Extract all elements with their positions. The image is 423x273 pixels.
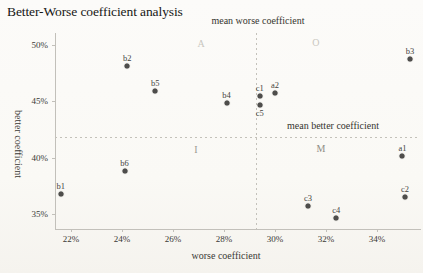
data-point-c4 bbox=[334, 215, 339, 220]
y-axis-tick bbox=[52, 214, 55, 215]
x-axis-tick-label: 24% bbox=[114, 234, 131, 244]
data-point-a2 bbox=[272, 91, 277, 96]
data-point-label-b6: b6 bbox=[120, 158, 129, 168]
data-point-label-b3: b3 bbox=[406, 46, 415, 56]
data-point-label-c2: c2 bbox=[401, 184, 409, 194]
quadrant-label-i: I bbox=[194, 143, 197, 154]
data-point-b1 bbox=[58, 191, 63, 196]
data-point-label-c3: c3 bbox=[304, 193, 312, 203]
x-axis-tick-label: 26% bbox=[165, 234, 182, 244]
x-axis-tick bbox=[122, 229, 123, 232]
data-point-label-c1: c1 bbox=[256, 83, 264, 93]
data-point-label-c4: c4 bbox=[332, 205, 340, 215]
y-axis-tick bbox=[52, 45, 55, 46]
data-point-a1 bbox=[400, 153, 405, 158]
quadrant-label-o: O bbox=[312, 36, 319, 47]
y-axis-tick-label: 50% bbox=[32, 40, 49, 50]
x-axis-tick-label: 30% bbox=[267, 234, 284, 244]
x-axis-tick-label: 34% bbox=[369, 234, 386, 244]
quadrant-label-m: M bbox=[316, 142, 325, 153]
data-point-c3 bbox=[306, 204, 311, 209]
data-point-b4 bbox=[224, 100, 229, 105]
data-point-c1 bbox=[257, 93, 262, 98]
x-axis-title: worse coefficient bbox=[192, 250, 261, 261]
x-axis-tick bbox=[275, 229, 276, 232]
data-point-c5 bbox=[257, 102, 262, 107]
data-point-c2 bbox=[402, 195, 407, 200]
y-axis-title: better coefficient bbox=[13, 110, 24, 178]
data-point-b6 bbox=[122, 169, 127, 174]
x-axis-tick bbox=[71, 229, 72, 232]
data-point-label-b1: b1 bbox=[57, 181, 66, 191]
data-point-label-a2: a2 bbox=[271, 80, 279, 90]
x-axis-tick-label: 32% bbox=[318, 234, 335, 244]
plot-area bbox=[55, 33, 421, 230]
x-axis-tick bbox=[326, 229, 327, 232]
x-axis-tick bbox=[224, 229, 225, 232]
data-point-label-c5: c5 bbox=[256, 108, 264, 118]
chart-title: Better-Worse coefficient analysis bbox=[7, 4, 183, 20]
x-axis-tick bbox=[173, 229, 174, 232]
data-point-label-b2: b2 bbox=[123, 53, 132, 63]
data-point-b5 bbox=[153, 89, 158, 94]
data-point-label-b5: b5 bbox=[151, 78, 160, 88]
better-worse-chart: Better-Worse coefficient analysis mean w… bbox=[0, 0, 423, 273]
mean-worse-line-label: mean worse coefficient bbox=[211, 15, 304, 26]
data-point-label-b4: b4 bbox=[222, 90, 231, 100]
mean-better-line bbox=[55, 137, 420, 138]
data-point-b3 bbox=[408, 56, 413, 61]
y-axis-tick-label: 35% bbox=[32, 209, 49, 219]
x-axis-tick-label: 28% bbox=[216, 234, 233, 244]
x-axis-tick-label: 22% bbox=[63, 234, 80, 244]
y-axis-tick-label: 45% bbox=[32, 96, 49, 106]
y-axis-tick bbox=[52, 158, 55, 159]
data-point-label-a1: a1 bbox=[398, 143, 406, 153]
quadrant-label-a: A bbox=[197, 37, 204, 48]
y-axis-tick bbox=[52, 101, 55, 102]
mean-worse-line bbox=[256, 33, 257, 229]
x-axis-tick bbox=[377, 229, 378, 232]
data-point-b2 bbox=[125, 64, 130, 69]
y-axis-tick-label: 40% bbox=[32, 153, 49, 163]
